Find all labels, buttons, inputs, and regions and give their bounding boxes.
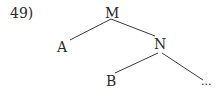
node-b: B — [106, 74, 116, 88]
example-number: 49) — [10, 6, 33, 20]
edge-m-a — [70, 19, 111, 40]
node-a: A — [57, 40, 67, 54]
edge-n-ellipsis — [162, 53, 203, 80]
node-m: M — [105, 6, 119, 20]
node-ellipsis: ... — [201, 75, 212, 89]
edge-m-n — [111, 19, 155, 36]
node-n: N — [154, 37, 166, 51]
edge-n-b — [115, 53, 158, 73]
